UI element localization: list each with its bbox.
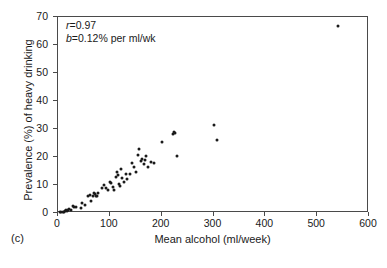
x-axis-label: Mean alcohol (ml/week) [57, 233, 368, 245]
plot-area [57, 16, 368, 212]
data-point [134, 171, 137, 174]
data-point [69, 208, 72, 211]
data-point [74, 206, 77, 209]
x-axis-tick [213, 212, 214, 216]
data-point [136, 154, 139, 157]
data-point [145, 154, 148, 157]
correlation-line: r=0.97 [66, 19, 156, 32]
slope-value: =0.12% per ml/wk [72, 32, 156, 44]
x-axis-tick [368, 212, 369, 216]
x-axis-tick-label: 200 [152, 217, 170, 229]
data-point [142, 162, 145, 165]
data-point [138, 148, 141, 151]
data-point [146, 166, 149, 169]
data-point [336, 24, 339, 27]
x-axis-tick [161, 212, 162, 216]
x-axis-tick-label: 500 [307, 217, 325, 229]
y-axis-tick [53, 72, 57, 73]
x-axis-tick [109, 212, 110, 216]
data-point [216, 138, 219, 141]
data-point [116, 173, 119, 176]
panel-label: (c) [11, 232, 24, 244]
x-axis-tick [316, 212, 317, 216]
data-points-layer [58, 17, 367, 211]
data-point [83, 204, 86, 207]
data-point [110, 182, 113, 185]
y-axis-label: Prevalence (%) of heavy drinking [22, 20, 34, 220]
data-point [212, 123, 215, 126]
slope-line: b=0.12% per ml/wk [66, 32, 156, 45]
data-point [132, 166, 135, 169]
y-axis-tick [53, 44, 57, 45]
y-axis-tick [53, 184, 57, 185]
x-axis-tick-label: 600 [359, 217, 377, 229]
data-point [90, 200, 93, 203]
data-point [153, 161, 156, 164]
scatter-plot-figure: 0100200300400500600010203040506070 Mean … [0, 0, 387, 268]
y-axis-tick [53, 16, 57, 17]
data-point [130, 162, 133, 165]
statistics-annotation: r=0.97 b=0.12% per ml/wk [66, 19, 156, 45]
data-point [118, 185, 121, 188]
x-axis-tick-label: 0 [54, 217, 60, 229]
data-point [106, 188, 109, 191]
data-point [122, 180, 125, 183]
y-axis-tick [53, 100, 57, 101]
x-axis-tick [57, 212, 58, 216]
x-axis-tick-label: 100 [100, 217, 118, 229]
data-point [113, 189, 116, 192]
data-point [124, 173, 127, 176]
x-axis-tick [264, 212, 265, 216]
data-point [126, 177, 129, 180]
data-point [128, 172, 131, 175]
data-point [161, 141, 164, 144]
data-point [97, 192, 100, 195]
data-point [144, 158, 147, 161]
data-point [175, 155, 178, 158]
data-point [173, 132, 176, 135]
data-point [88, 194, 91, 197]
data-point [79, 206, 82, 209]
y-axis-tick [53, 156, 57, 157]
y-axis-tick [53, 128, 57, 129]
correlation-value: =0.97 [70, 19, 97, 31]
x-axis-tick-label: 400 [256, 217, 274, 229]
data-point [121, 177, 124, 180]
x-axis-tick-label: 300 [204, 217, 222, 229]
data-point [120, 167, 123, 170]
y-axis-tick [53, 212, 57, 213]
data-point [96, 195, 99, 198]
data-point [100, 187, 103, 190]
